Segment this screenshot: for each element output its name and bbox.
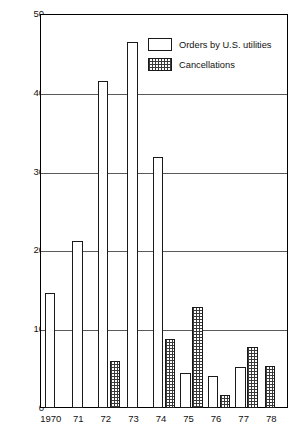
x-tick-label-74: 74 bbox=[156, 414, 167, 424]
x-tick-label-77: 77 bbox=[238, 414, 249, 424]
y-tick-label-0: 0 bbox=[10, 403, 44, 413]
white-box-icon bbox=[148, 38, 172, 51]
legend-label: Orders by U.S. utilities bbox=[179, 40, 271, 50]
x-tick-label-76: 76 bbox=[211, 414, 222, 424]
x-tick-label-75: 75 bbox=[183, 414, 194, 424]
x-tick-label-72: 72 bbox=[101, 414, 112, 424]
y-tick-label-50: 50 bbox=[10, 9, 44, 19]
y-tick-label-10: 10 bbox=[10, 324, 44, 334]
bar-orders-77 bbox=[235, 367, 246, 408]
bar-cancellations-77 bbox=[247, 347, 258, 408]
x-tick-label-1970: 1970 bbox=[40, 414, 61, 424]
nuclear-plant-orders-bar-chart: Thousands of megawatts of net generating… bbox=[0, 0, 297, 432]
stippled-box-icon bbox=[148, 58, 172, 71]
bar-orders-76 bbox=[208, 376, 219, 408]
bar-cancellations-78 bbox=[265, 366, 276, 408]
bar-orders-72 bbox=[98, 81, 109, 408]
legend-item-cancellations: Cancellations bbox=[148, 58, 271, 71]
y-tick-label-20: 20 bbox=[10, 245, 44, 255]
x-tick-label-78: 78 bbox=[266, 414, 277, 424]
bar-cancellations-72 bbox=[110, 361, 121, 408]
x-tick-label-71: 71 bbox=[73, 414, 84, 424]
bar-orders-74 bbox=[153, 157, 164, 408]
x-tick-label-73: 73 bbox=[128, 414, 139, 424]
y-tick-label-30: 30 bbox=[10, 167, 44, 177]
legend-item-orders: Orders by U.S. utilities bbox=[148, 38, 271, 51]
legend-label: Cancellations bbox=[179, 60, 235, 70]
bar-cancellations-76 bbox=[220, 395, 231, 408]
bar-cancellations-75 bbox=[192, 307, 203, 408]
bar-orders-75 bbox=[180, 373, 191, 408]
bar-orders-73 bbox=[127, 42, 138, 408]
bars-layer bbox=[40, 14, 288, 408]
bar-cancellations-74 bbox=[165, 339, 176, 408]
y-tick-label-40: 40 bbox=[10, 88, 44, 98]
bar-orders-71 bbox=[72, 241, 83, 408]
bar-orders-1970 bbox=[45, 293, 56, 408]
chart-legend: Orders by U.S. utilitiesCancellations bbox=[148, 38, 271, 71]
